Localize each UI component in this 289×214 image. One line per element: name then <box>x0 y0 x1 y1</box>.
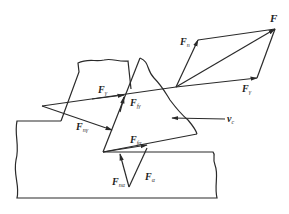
parallelogram-right <box>257 29 275 78</box>
force-arrow-falpha <box>103 145 147 152</box>
label-v-c: vc <box>227 113 234 125</box>
label-F-alpha: Fα <box>144 171 156 183</box>
label-F-gamma: Fγ <box>97 84 108 96</box>
label-F: F <box>269 12 278 24</box>
label-F-fgamma: Ffγ <box>129 97 141 109</box>
velocity-arrow <box>172 118 225 119</box>
force-arrow-F <box>176 29 275 87</box>
cutting-force-diagram: F Fn Fγ Fγ Ffγ Fnγ Ffα Fnα Fα vc <box>0 0 289 214</box>
parallelogram-top <box>198 29 275 40</box>
force-arrow-gamma <box>92 95 124 99</box>
label-F-ngamma: Fnγ <box>75 121 89 133</box>
label-F-n: Fn <box>179 36 190 48</box>
tool-wavy-edge <box>140 58 197 134</box>
label-F-gamma-right: Fγ <box>241 83 252 95</box>
label-F-nalpha: Fnα <box>111 176 126 188</box>
force-arrow-fgamma <box>120 97 124 112</box>
label-F-falpha: Ffα <box>129 134 142 146</box>
